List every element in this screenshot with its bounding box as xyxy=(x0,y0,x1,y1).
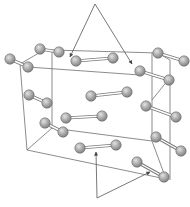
cell-edge xyxy=(27,128,52,150)
atom xyxy=(108,53,118,63)
molecule xyxy=(153,48,189,66)
pointer-arrow xyxy=(70,4,95,57)
pointer-arrow xyxy=(96,152,97,198)
atom xyxy=(97,111,107,121)
atom xyxy=(171,112,181,122)
atom xyxy=(153,48,163,58)
molecule xyxy=(24,90,52,108)
atom xyxy=(54,47,64,57)
molecule xyxy=(61,111,107,123)
atom xyxy=(40,118,50,128)
molecule xyxy=(141,101,181,122)
atom xyxy=(5,54,15,64)
cell-edge xyxy=(28,67,140,75)
atom xyxy=(141,101,151,111)
cell-edge xyxy=(52,50,158,53)
atom xyxy=(164,75,174,85)
molecule xyxy=(5,54,33,72)
atom xyxy=(179,56,189,66)
atom xyxy=(75,143,85,153)
atom xyxy=(111,140,121,150)
atom xyxy=(122,87,132,97)
atom xyxy=(71,56,81,66)
molecule xyxy=(86,87,132,101)
atom xyxy=(176,146,186,156)
atom xyxy=(58,127,68,137)
atom xyxy=(132,157,142,167)
crystal-lattice-diagram xyxy=(0,0,190,207)
atom xyxy=(23,62,33,72)
atom xyxy=(151,132,161,142)
atom xyxy=(42,98,52,108)
atom xyxy=(159,172,169,182)
cell-edge xyxy=(20,64,27,150)
pointer-arrow xyxy=(97,172,150,198)
molecule xyxy=(135,66,174,85)
molecule xyxy=(75,140,121,153)
atom xyxy=(135,66,145,76)
atom xyxy=(61,113,71,123)
pointer-arrows xyxy=(70,4,150,198)
molecules xyxy=(5,44,189,182)
atom xyxy=(24,90,34,100)
atom xyxy=(86,91,96,101)
molecule xyxy=(35,44,64,57)
molecule xyxy=(71,53,118,66)
atom xyxy=(35,44,45,54)
